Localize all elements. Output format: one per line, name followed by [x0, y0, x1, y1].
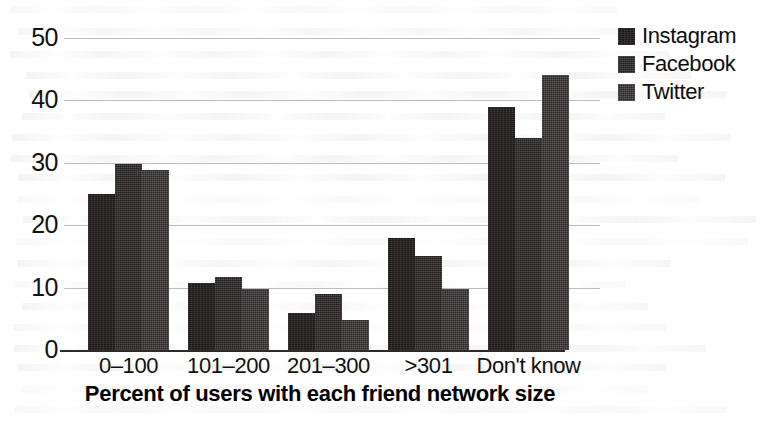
bar-instagram[interactable]	[88, 194, 115, 350]
legend-swatch-icon	[618, 84, 635, 101]
bar-facebook[interactable]	[115, 164, 142, 350]
x-axis-tick-labels: 0–100101–200201–300>301Don't know	[64, 353, 600, 383]
bar-twitter[interactable]	[542, 75, 569, 350]
bar-facebook[interactable]	[415, 256, 442, 350]
grouped-bar-chart: 01020304050 0–100101–200201–300>301Don't…	[0, 0, 760, 424]
x-axis-line	[60, 350, 565, 352]
bar-facebook[interactable]	[315, 294, 342, 350]
legend-label: Instagram	[642, 24, 736, 48]
bar-twitter[interactable]	[142, 170, 169, 350]
bar-twitter[interactable]	[442, 289, 469, 350]
y-axis-tick-labels: 01020304050	[0, 0, 58, 424]
bar-group	[288, 38, 369, 350]
bar-group	[488, 38, 569, 350]
legend-swatch-icon	[618, 56, 635, 73]
y-axis-tick-label: 10	[10, 275, 58, 300]
legend-label: Twitter	[642, 80, 704, 104]
y-axis-tick-label: 40	[10, 87, 58, 112]
bar-group	[388, 38, 469, 350]
bar-group	[188, 38, 269, 350]
legend-item-instagram[interactable]: Instagram	[618, 22, 760, 50]
bar-instagram[interactable]	[388, 238, 415, 350]
bar-twitter[interactable]	[242, 289, 269, 350]
legend-label: Facebook	[642, 52, 735, 76]
bar-facebook[interactable]	[215, 277, 242, 350]
chart-legend: InstagramFacebookTwitter	[618, 22, 760, 106]
bar-group	[88, 38, 169, 350]
bar-instagram[interactable]	[188, 283, 215, 350]
bar-instagram[interactable]	[288, 313, 315, 350]
legend-item-facebook[interactable]: Facebook	[618, 50, 760, 78]
y-axis-tick-label: 50	[10, 25, 58, 50]
y-axis-tick-label: 30	[10, 150, 58, 175]
bar-twitter[interactable]	[342, 320, 369, 350]
x-axis-tick-label: Don't know	[459, 353, 599, 379]
bars-layer	[64, 38, 600, 350]
legend-swatch-icon	[618, 28, 635, 45]
y-axis-tick-label: 20	[10, 212, 58, 237]
y-axis-tick-label: 0	[10, 337, 58, 362]
x-axis-title: Percent of users with each friend networ…	[0, 381, 640, 407]
bar-facebook[interactable]	[515, 138, 542, 350]
legend-item-twitter[interactable]: Twitter	[618, 78, 760, 106]
bar-instagram[interactable]	[488, 107, 515, 350]
